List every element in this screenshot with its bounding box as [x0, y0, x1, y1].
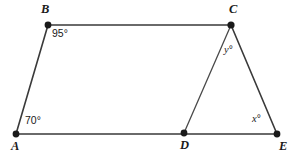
vertex-label-d: D: [180, 139, 189, 152]
angle-label-c-degree: °: [229, 43, 233, 55]
angle-label-e: x°: [252, 113, 261, 125]
vertex-label-b: B: [41, 3, 49, 16]
vertex-dot-a: [13, 131, 20, 138]
segment-cd: [184, 25, 231, 133]
figure-svg: [0, 0, 293, 156]
vertex-label-c: C: [229, 3, 237, 16]
vertex-dot-e: [274, 131, 281, 138]
vertex-label-e: E: [279, 140, 287, 153]
angle-label-b: 95°: [52, 28, 68, 39]
vertex-dot-b: [45, 22, 52, 29]
vertex-dot-c: [227, 21, 234, 28]
vertex-dot-d: [181, 130, 188, 137]
angle-label-c: y°: [224, 44, 233, 56]
angle-label-e-degree: °: [257, 112, 261, 124]
angle-label-a: 70°: [25, 115, 41, 126]
geometry-diagram: A B C D E 95° 70° y° x°: [0, 0, 293, 156]
vertex-label-a: A: [11, 140, 19, 153]
